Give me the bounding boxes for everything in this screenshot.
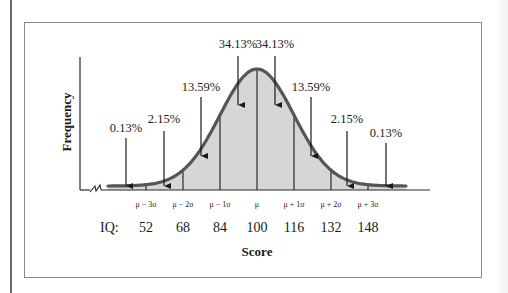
percentage-label: 0.13% (110, 121, 142, 135)
iq-value-label: 116 (284, 220, 304, 235)
iq-value-label: 52 (139, 220, 153, 235)
iq-value-label: 132 (321, 220, 342, 235)
percentage-label: 34.13% (219, 37, 258, 51)
sigma-tick-labels: μ − 3σμ − 2σμ − 1σμμ + 1σμ + 2σμ + 3σ (135, 200, 379, 209)
y-axis-label: Frequency (59, 92, 74, 151)
percentage-label: 13.59% (182, 80, 221, 94)
percentage-label: 2.15% (331, 112, 363, 126)
sigma-tick-label: μ − 2σ (172, 200, 194, 209)
percentage-label: 34.13% (256, 37, 295, 51)
x-axis-label: Score (242, 244, 273, 259)
sigma-tick-label: μ + 1σ (283, 200, 305, 209)
iq-value-labels: 526884100116132148 (139, 220, 379, 235)
axis-break-icon (90, 185, 101, 192)
sigma-tick-label: μ − 3σ (135, 200, 157, 209)
normal-distribution-chart: Frequency 0.13%2.15%13.59%34.13%34.13%13… (0, 0, 508, 293)
sigma-tick-label: μ (255, 200, 259, 209)
iq-value-label: 84 (213, 220, 227, 235)
sigma-tick-label: μ + 3σ (357, 200, 379, 209)
iq-value-label: 68 (176, 220, 190, 235)
sigma-tick-label: μ + 2σ (320, 200, 342, 209)
percentage-label: 0.13% (370, 126, 402, 140)
iq-value-label: 100 (247, 220, 268, 235)
percentage-label: 13.59% (292, 80, 331, 94)
percentage-label: 2.15% (148, 112, 180, 126)
sigma-tick-label: μ − 1σ (209, 200, 231, 209)
iq-value-label: 148 (358, 220, 379, 235)
iq-prefix-label: IQ: (100, 220, 119, 235)
